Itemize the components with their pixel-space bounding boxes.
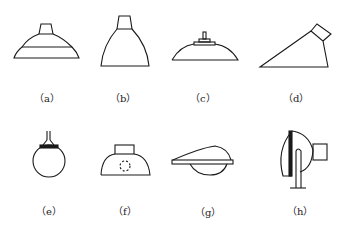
label-c: （c）	[190, 90, 216, 105]
luminaire-diagram	[0, 0, 342, 229]
lamp-g-icon	[172, 146, 233, 175]
lamp-a-icon	[14, 24, 79, 58]
label-e: （e）	[36, 203, 62, 218]
lamp-b-icon	[101, 16, 149, 66]
label-f: （f）	[113, 203, 137, 218]
label-b: （b）	[110, 90, 136, 105]
lamp-d-icon	[260, 24, 331, 67]
lamp-c-icon	[172, 32, 238, 60]
label-g: （g）	[195, 204, 221, 219]
label-h: （h）	[287, 203, 313, 218]
lamp-h-icon	[281, 131, 327, 188]
lamp-f-icon	[101, 145, 150, 175]
lamp-e-icon	[33, 131, 65, 177]
label-d: （d）	[283, 90, 309, 105]
label-a: （a）	[34, 90, 60, 105]
